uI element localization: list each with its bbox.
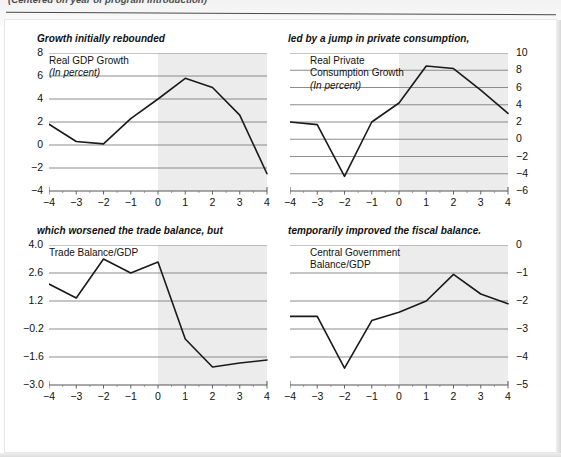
y-axis-tick-label: −4 [516, 167, 544, 179]
x-axis-tick-label: −3 [64, 196, 88, 208]
plot-area: Central GovernmentBalance/GDP [290, 245, 508, 385]
horizontal-rule [6, 12, 556, 15]
chart-title: temporarily improved the fiscal balance. [288, 225, 481, 236]
x-axis-tick-label: 3 [469, 390, 493, 402]
legend-line: Real GDP Growth [49, 55, 129, 67]
x-axis-tick-label: −2 [92, 196, 116, 208]
chart-legend: Real GDP Growth(In percent) [49, 55, 129, 80]
chart-title: led by a jump in private consumption, [288, 33, 469, 44]
plot-area: Real PrivateConsumption Growth(In percen… [290, 53, 508, 191]
y-axis-tick-label: −3.0 [23, 378, 43, 390]
x-axis-tick-label: −1 [119, 196, 143, 208]
x-axis-tick-label: 1 [414, 390, 438, 402]
x-axis-tick-label: −1 [360, 196, 384, 208]
y-axis-tick-label: 6 [516, 81, 544, 93]
y-axis-tick-label: 0 [516, 132, 544, 144]
y-axis-tick-label: 0 [516, 238, 544, 250]
x-axis-tick-label: −4 [278, 390, 302, 402]
x-axis-tick-label: 0 [387, 196, 411, 208]
x-axis-tick-label: 3 [228, 196, 252, 208]
y-axis-tick-label: 4.0 [23, 238, 43, 250]
y-axis-tick-label: 2.6 [23, 266, 43, 278]
x-axis-tick-label: −4 [37, 390, 61, 402]
y-axis-tick-label: 8 [516, 63, 544, 75]
y-axis-tick-label: −1.6 [23, 350, 43, 362]
legend-line: (In percent) [49, 67, 129, 79]
x-axis-tick-label: 4 [255, 390, 279, 402]
y-axis-tick-label: 8 [23, 46, 43, 58]
y-axis-tick-label: 2 [23, 115, 43, 127]
x-axis-tick-label: 2 [201, 390, 225, 402]
x-axis-tick-label: 3 [228, 390, 252, 402]
chart-title: which worsened the trade balance, but [37, 225, 223, 236]
x-axis-tick-label: 0 [146, 196, 170, 208]
x-axis-tick-label: −4 [37, 196, 61, 208]
x-axis-tick-label: 4 [255, 196, 279, 208]
y-axis-tick-label: 6 [23, 69, 43, 81]
chart-legend: Real PrivateConsumption Growth(In percen… [310, 55, 404, 92]
x-axis-tick-label: −2 [333, 196, 357, 208]
y-axis-tick-label: −2 [516, 294, 544, 306]
x-axis-tick-label: 4 [496, 196, 520, 208]
page-right-edge [556, 20, 561, 457]
figure-page: (Centered on year of program introductio… [0, 0, 561, 457]
x-axis-tick-label: 2 [442, 390, 466, 402]
y-axis-tick-label: −2 [516, 150, 544, 162]
x-axis-tick-label: 0 [146, 390, 170, 402]
chart-title: Growth initially rebounded [37, 33, 165, 44]
y-axis-tick-label: −4 [23, 184, 43, 196]
x-axis-tick-label: 2 [442, 196, 466, 208]
figure-caption: (Centered on year of program introductio… [8, 0, 207, 5]
x-axis-tick-label: 3 [469, 196, 493, 208]
x-axis-tick-label: −3 [64, 390, 88, 402]
y-axis-tick-label: −3 [516, 322, 544, 334]
shaded-post-program-region [158, 245, 267, 385]
x-axis-tick-label: −3 [305, 390, 329, 402]
y-axis-tick-label: −6 [516, 184, 544, 196]
x-axis-tick-label: 2 [201, 196, 225, 208]
y-axis-tick-label: −0.2 [23, 322, 43, 334]
y-axis-tick-label: 0 [23, 138, 43, 150]
x-axis-tick-label: −2 [333, 390, 357, 402]
plot-area: Trade Balance/GDP [49, 245, 267, 385]
y-axis-tick-label: 4 [23, 92, 43, 104]
y-axis-tick-label: 10 [516, 46, 544, 58]
x-axis-tick-label: 1 [173, 196, 197, 208]
x-axis-tick-label: −4 [278, 196, 302, 208]
y-axis-tick-label: 4 [516, 98, 544, 110]
x-axis-tick-label: 1 [414, 196, 438, 208]
y-axis-tick-label: −4 [516, 350, 544, 362]
x-axis-tick-label: 4 [496, 390, 520, 402]
x-axis-tick-label: −2 [92, 390, 116, 402]
x-axis-tick-label: 1 [173, 390, 197, 402]
x-axis-tick-label: −3 [305, 196, 329, 208]
y-axis-tick-label: −5 [516, 378, 544, 390]
y-axis-tick-label: −2 [23, 161, 43, 173]
chart-legend: Trade Balance/GDP [49, 247, 138, 259]
x-axis-tick-label: 0 [387, 390, 411, 402]
figure-panel: Growth initially reboundedReal GDP Growt… [5, 20, 556, 452]
chart-canvas [49, 245, 273, 399]
legend-line: Consumption Growth [310, 67, 404, 79]
chart-legend: Central GovernmentBalance/GDP [310, 247, 400, 272]
x-axis-tick-label: −1 [360, 390, 384, 402]
y-axis-tick-label: 1.2 [23, 294, 43, 306]
legend-line: Trade Balance/GDP [49, 247, 138, 259]
legend-line: Balance/GDP [310, 259, 400, 271]
y-axis-tick-label: 2 [516, 115, 544, 127]
shaded-post-program-region [399, 245, 508, 385]
plot-area: Real GDP Growth(In percent) [49, 53, 267, 191]
x-axis-tick-label: −1 [119, 390, 143, 402]
legend-line: (In percent) [310, 80, 404, 92]
y-axis-tick-label: −1 [516, 266, 544, 278]
legend-line: Central Government [310, 247, 400, 259]
page-bottom-edge [0, 453, 561, 457]
legend-line: Real Private [310, 55, 404, 67]
